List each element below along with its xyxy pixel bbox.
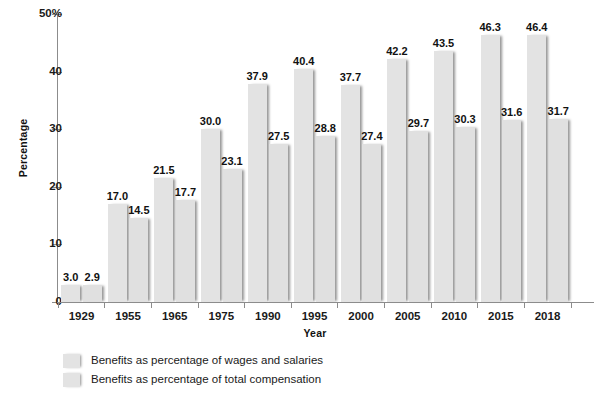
bar (108, 204, 127, 302)
x-axis-tick (104, 303, 105, 308)
bar-value-label: 37.7 (330, 71, 370, 83)
bar-value-label: 37.9 (237, 70, 277, 82)
bar (481, 35, 500, 302)
legend-swatch-icon (63, 354, 80, 368)
x-axis-tick (291, 303, 292, 308)
bar-value-label: 29.7 (398, 117, 438, 129)
y-axis-tick-label: 40 (14, 66, 62, 77)
x-axis-tick (337, 303, 338, 308)
bar-value-label: 30.0 (191, 115, 231, 127)
y-axis-tick-label: 50% (14, 8, 62, 19)
bar (316, 136, 335, 302)
bar-value-label: 27.4 (352, 130, 392, 142)
legend-label: Benefits as percentage of wages and sala… (91, 353, 323, 368)
bar-value-label: 43.5 (424, 37, 464, 49)
bar-value-label: 31.7 (538, 105, 578, 117)
x-axis-line (57, 302, 594, 303)
y-axis-title: Percentage (17, 98, 29, 198)
bar-value-label: 17.0 (97, 190, 137, 202)
bar (129, 218, 148, 302)
bar (61, 285, 80, 302)
bar-value-label: 27.5 (259, 130, 299, 142)
y-axis-line (57, 14, 58, 303)
bar (549, 119, 568, 302)
bar-value-label: 40.4 (284, 55, 324, 67)
bar-value-label: 31.6 (492, 106, 532, 118)
bar (409, 131, 428, 302)
bar-chart: 01020304050% Percentage 3.02.917.014.521… (0, 0, 600, 403)
x-axis-tick (477, 303, 478, 308)
x-axis-tick (524, 303, 525, 308)
y-axis-tick-label: 0 (14, 296, 62, 307)
chart-legend: Benefits as percentage of wages and sala… (63, 352, 493, 390)
bar (223, 169, 242, 302)
bar-value-label: 28.8 (305, 122, 345, 134)
bar (269, 144, 288, 302)
y-axis-tick-label: 10 (14, 238, 62, 249)
legend-item-total-compensation: Benefits as percentage of total compensa… (63, 371, 493, 390)
bar-value-label: 14.5 (119, 204, 159, 216)
legend-item-wages-and-salaries: Benefits as percentage of wages and sala… (63, 352, 493, 371)
legend-swatch-icon (63, 373, 80, 387)
bar (362, 144, 381, 302)
x-axis-title: Year (0, 327, 600, 339)
bar-value-label: 2.9 (72, 271, 112, 283)
bar-value-label: 23.1 (212, 155, 252, 167)
bar (341, 85, 360, 302)
bar (294, 69, 313, 302)
x-axis-tick (58, 303, 59, 308)
x-axis-tick (384, 303, 385, 308)
bar (434, 51, 453, 302)
x-axis-tick (198, 303, 199, 308)
bar (176, 200, 195, 302)
bar-value-label: 21.5 (144, 164, 184, 176)
x-axis-tick-label: 2018 (518, 310, 578, 323)
bar-value-label: 17.7 (165, 186, 205, 198)
x-axis-tick (151, 303, 152, 308)
x-axis-tick (571, 303, 572, 308)
bar (502, 120, 521, 302)
bar (527, 35, 546, 302)
x-axis-tick (244, 303, 245, 308)
bar (456, 127, 475, 302)
bar (387, 59, 406, 302)
legend-label: Benefits as percentage of total compensa… (91, 372, 321, 387)
bar-value-label: 46.3 (470, 21, 510, 33)
bar-value-label: 30.3 (445, 113, 485, 125)
bar (83, 285, 102, 302)
bar-value-label: 46.4 (517, 21, 557, 33)
bar-value-label: 42.2 (377, 45, 417, 57)
x-axis-tick (431, 303, 432, 308)
bar (248, 84, 267, 302)
